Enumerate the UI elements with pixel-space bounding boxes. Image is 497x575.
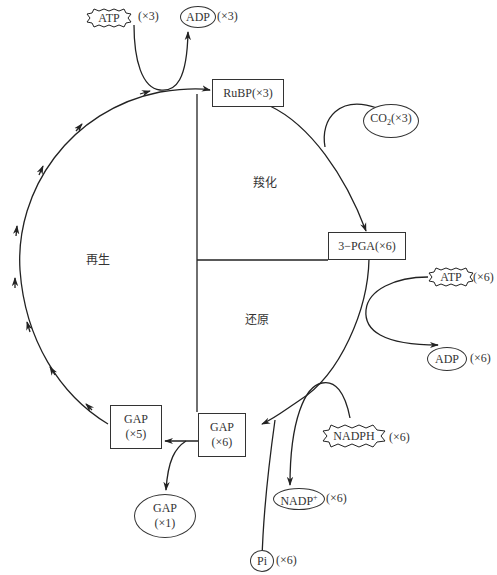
rubp-label: RuBP(×3): [223, 86, 272, 101]
adp-top-label: ADP: [186, 10, 210, 25]
gap5-node: GAP (×5): [110, 405, 162, 449]
nadp-ellipse: NADP+: [273, 488, 325, 510]
gap1-count: (×1): [155, 516, 176, 531]
gap5-count: (×5): [126, 427, 147, 442]
phase-reduction-label: 还原: [245, 310, 269, 327]
gap6-node: GAP (×6): [198, 413, 246, 457]
adp-right-ellipse: ADP: [427, 347, 467, 371]
gap1-name: GAP: [153, 501, 177, 516]
gap6-name: GAP: [210, 420, 234, 435]
gap5-name: GAP: [124, 412, 148, 427]
atp-top-count: (×3): [138, 9, 159, 23]
adp-top-ellipse: ADP: [180, 6, 216, 28]
gap1-ellipse: GAP (×1): [134, 494, 196, 538]
nadph-count: (×6): [389, 430, 410, 444]
gap6-count: (×6): [212, 435, 233, 450]
phase-carboxylation-label: 羧化: [253, 173, 277, 190]
atp-top-label: ATP: [98, 11, 119, 26]
nadph-label: NADPH: [333, 429, 374, 444]
nadp-count: (×6): [326, 491, 347, 505]
pga-node: 3−PGA(×6): [328, 232, 406, 260]
co2-label: CO2(×3): [370, 111, 411, 130]
atp-right-label: ATP: [440, 270, 461, 285]
nadp-label: NADP+: [280, 490, 317, 509]
pga-label: 3−PGA(×6): [338, 239, 396, 254]
co2-ellipse: CO2(×3): [363, 104, 419, 138]
adp-right-count: (×6): [470, 351, 491, 365]
rubp-node: RuBP(×3): [212, 79, 284, 107]
pi-ellipse: Pi: [250, 550, 274, 572]
atp-right-burst: ATP: [428, 267, 474, 287]
pi-count: (×6): [276, 553, 297, 567]
atp-top-burst: ATP: [86, 8, 132, 28]
adp-right-label: ADP: [435, 352, 459, 367]
adp-top-count: (×3): [217, 9, 238, 23]
atp-right-count: (×6): [473, 270, 494, 284]
phase-regeneration-label: 再生: [86, 250, 110, 267]
nadph-burst: NADPH: [322, 424, 386, 448]
pi-label: Pi: [257, 554, 267, 569]
